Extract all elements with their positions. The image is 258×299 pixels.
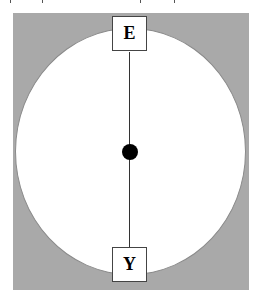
center-dot-icon (122, 144, 138, 160)
cropped-text-fragments (0, 0, 258, 4)
text-fragment (42, 0, 43, 3)
node-bottom-label: Y (123, 254, 136, 275)
node-top: E (112, 16, 147, 51)
node-bottom: Y (112, 247, 147, 282)
text-fragment (10, 0, 11, 3)
node-top-label: E (123, 23, 135, 44)
diagram-background-panel: E Y (13, 13, 249, 290)
text-fragment (140, 0, 141, 3)
text-fragment (174, 0, 175, 3)
